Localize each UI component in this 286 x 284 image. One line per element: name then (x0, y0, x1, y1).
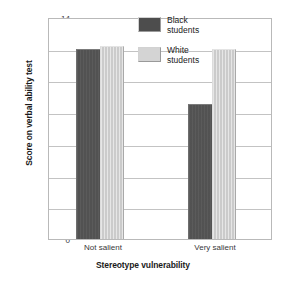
x-tick-label-not-salient: Not salient (48, 243, 158, 252)
legend: Black students White students (138, 16, 242, 76)
legend-label: Black students (167, 16, 199, 35)
bar-black-not-salient (76, 49, 100, 239)
light-swatch-icon (138, 47, 161, 62)
bar-black-very-salient (188, 104, 212, 239)
y-axis-title: Score on verbal ability test (24, 28, 34, 198)
legend-entry-black-students: Black students (138, 16, 242, 35)
bar-white-very-salient (212, 49, 236, 239)
bar-chart: Score on verbal ability test 14 12 10 8 … (0, 0, 286, 284)
dark-swatch-icon (138, 17, 161, 32)
bar-white-not-salient (100, 46, 124, 240)
legend-label: White students (167, 46, 199, 65)
legend-entry-white-students: White students (138, 46, 242, 65)
x-tick-label-very-salient: Very salient (160, 243, 270, 252)
x-axis-title: Stereotype vulnerability (0, 260, 286, 270)
